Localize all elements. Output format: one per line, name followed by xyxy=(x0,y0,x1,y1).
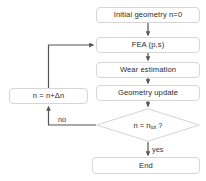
connector-decision-to-increment xyxy=(49,107,97,126)
flowchart-canvas: Initial geometry n=0 FEA (p,s) Wear esti… xyxy=(0,0,206,181)
edge-label-yes: yes xyxy=(152,145,164,154)
node-wear-estimation-label: Wear estimation xyxy=(120,66,176,74)
node-geometry-update-label: Geometry update xyxy=(118,89,178,97)
node-end-label: End xyxy=(139,162,153,170)
node-decision-label: n = ntot ? xyxy=(133,121,162,130)
node-increment-counter[interactable]: n = n+Δn xyxy=(9,88,88,104)
node-fea-label: FEA (p,s) xyxy=(132,41,165,49)
node-wear-estimation[interactable]: Wear estimation xyxy=(96,62,200,78)
connector-increment-to-fea xyxy=(49,45,94,88)
node-decision-label-main: n = n xyxy=(133,121,150,130)
node-decision-label-subscript: tot xyxy=(151,124,157,130)
node-initial-geometry-label: Initial geometry n=0 xyxy=(114,11,182,19)
node-end[interactable]: End xyxy=(92,157,200,174)
node-geometry-update[interactable]: Geometry update xyxy=(96,85,200,101)
node-fea[interactable]: FEA (p,s) xyxy=(96,37,200,53)
node-increment-counter-label: n = n+Δn xyxy=(33,92,65,100)
node-decision-label-suffix: ? xyxy=(156,121,162,130)
edge-label-no: no xyxy=(58,115,66,124)
node-decision-iteration-check[interactable]: n = ntot ? xyxy=(96,108,200,142)
node-initial-geometry[interactable]: Initial geometry n=0 xyxy=(96,7,200,23)
